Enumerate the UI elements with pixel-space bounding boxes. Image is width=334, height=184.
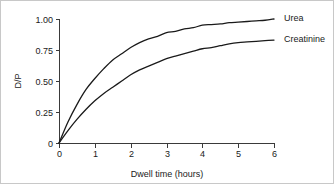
y-tick-labels-group: 00.250.500.751.00	[35, 15, 53, 149]
series-label-urea: Urea	[284, 13, 304, 23]
x-axis-title: Dwell time (hours)	[131, 169, 204, 179]
x-tick-labels-group: 0123456	[57, 149, 277, 159]
x-tick-label: 3	[165, 149, 170, 159]
figure-container: 00.250.500.751.00 0123456 UreaCreatinine…	[0, 0, 334, 184]
x-tick-label: 1	[93, 149, 98, 159]
data-curve-urea	[59, 19, 274, 143]
chart-canvas: 00.250.500.751.00 0123456 UreaCreatinine…	[1, 1, 334, 184]
data-curves-group	[59, 19, 274, 143]
x-tick-label: 0	[57, 149, 62, 159]
tick-marks-group	[56, 20, 275, 148]
y-tick-label: 0	[48, 139, 53, 149]
y-tick-label: 0.75	[35, 46, 53, 56]
y-tick-label: 1.00	[35, 15, 53, 25]
x-tick-label: 4	[200, 149, 205, 159]
series-label-creatinine: Creatinine	[284, 34, 325, 44]
y-axis-title: D/P	[13, 73, 23, 88]
x-tick-label: 2	[129, 149, 134, 159]
y-tick-label: 0.50	[35, 77, 53, 87]
x-tick-label: 6	[272, 149, 277, 159]
y-tick-label: 0.25	[35, 108, 53, 118]
axes-group	[60, 19, 275, 144]
series-labels-group: UreaCreatinine	[284, 13, 325, 44]
data-curve-creatinine	[59, 40, 274, 143]
x-tick-label: 5	[236, 149, 241, 159]
